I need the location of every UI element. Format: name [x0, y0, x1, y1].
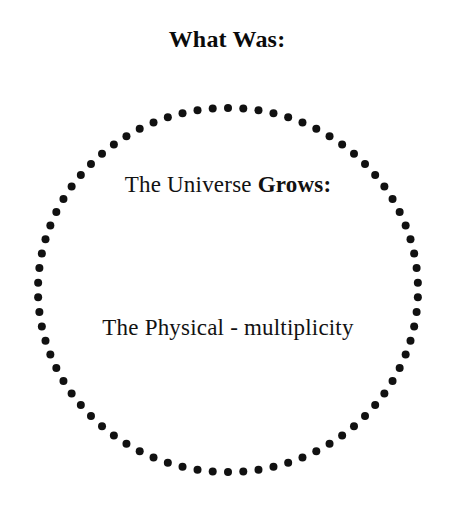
- page-title: What Was:: [0, 26, 454, 53]
- circle-text-line-2: The Physical - multiplicity: [52, 313, 404, 343]
- circle-text-block: The Universe Grows: The Physical - multi…: [52, 170, 404, 343]
- circle-text-line-2-regular: The Physical - multiplicity: [102, 315, 353, 340]
- circle-text-line-1-bold: Grows:: [258, 172, 332, 197]
- circle-text-line-1: The Universe Grows:: [52, 170, 404, 200]
- diagram-canvas: What Was: The Universe Grows: The Physic…: [0, 0, 454, 513]
- circle-text-line-1-regular: The Universe: [125, 172, 258, 197]
